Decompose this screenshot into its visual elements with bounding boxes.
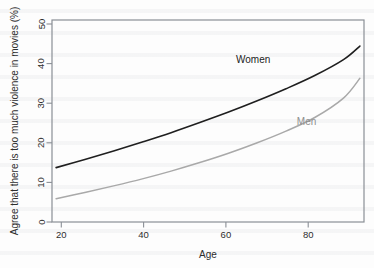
chart-figure: 0 10 20 30 40 50 Agree that there is too…: [0, 0, 374, 268]
x-tick-label-40: 40: [138, 229, 149, 240]
y-tick-label-30: 30: [36, 98, 47, 109]
series-label-women: Women: [236, 54, 270, 65]
y-tick-label-20: 20: [36, 138, 47, 149]
series-line-men: [56, 78, 360, 198]
x-axis-title: Age: [199, 249, 217, 260]
y-tick-label-40: 40: [36, 58, 47, 69]
y-axis-title: Agree that there is too much violence in…: [9, 7, 20, 235]
y-tick-label-0: 0: [36, 219, 47, 224]
x-tick-label-80: 80: [303, 229, 314, 240]
x-tick-label-20: 20: [56, 229, 67, 240]
y-tick-label-10: 10: [36, 177, 47, 188]
series-label-men: Men: [297, 116, 316, 127]
series-line-women: [56, 46, 360, 168]
plot-frame: [52, 20, 364, 222]
y-axis-ticks: [47, 24, 53, 222]
line-chart: 0 10 20 30 40 50 Agree that there is too…: [0, 0, 374, 268]
y-tick-label-50: 50: [36, 19, 47, 30]
x-axis-ticks: [61, 222, 308, 228]
x-tick-label-60: 60: [221, 229, 232, 240]
